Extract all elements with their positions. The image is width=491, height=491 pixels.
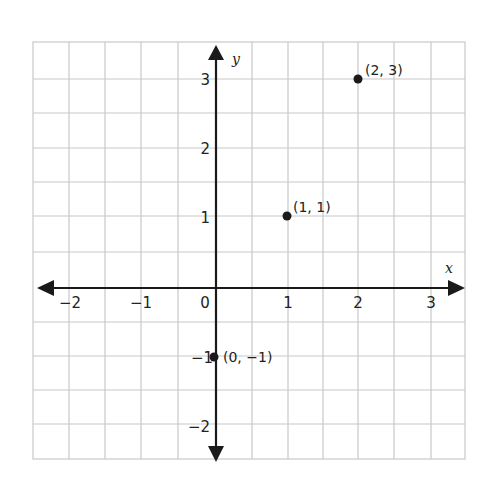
point-label: (0, −1) bbox=[223, 349, 272, 365]
x-axis-label: x bbox=[445, 260, 453, 276]
point-0-neg1 bbox=[210, 353, 219, 362]
x-tick: −1 bbox=[130, 294, 152, 312]
y-axis-up-arrow-icon bbox=[208, 45, 224, 60]
point-label: (2, 3) bbox=[365, 62, 403, 78]
grid bbox=[33, 42, 465, 459]
y-tick: −2 bbox=[188, 418, 210, 436]
x-axis-left-arrow-icon bbox=[37, 280, 54, 296]
x-axis-right-arrow-icon bbox=[448, 280, 465, 296]
data-points: (2, 3) (1, 1) (0, −1) bbox=[210, 62, 403, 365]
x-tick: 0 bbox=[200, 294, 210, 312]
x-tick: 3 bbox=[426, 294, 436, 312]
point-label: (1, 1) bbox=[293, 199, 331, 215]
axes bbox=[37, 45, 465, 462]
x-tick: 2 bbox=[353, 294, 363, 312]
y-tick-labels: 3 2 1 −1 −2 bbox=[188, 71, 213, 436]
x-tick-labels: −2 −1 0 1 2 3 bbox=[59, 294, 436, 312]
coordinate-plane: y x −2 −1 0 1 2 3 3 2 1 −1 −2 (2, 3) (1,… bbox=[0, 0, 491, 491]
point-1-1 bbox=[283, 212, 292, 221]
x-tick: −2 bbox=[59, 294, 81, 312]
y-tick: 3 bbox=[200, 71, 210, 89]
x-tick: 1 bbox=[283, 294, 293, 312]
grid-border bbox=[33, 42, 465, 459]
y-tick: 2 bbox=[200, 140, 210, 158]
y-axis-label: y bbox=[231, 51, 241, 67]
y-tick: 1 bbox=[200, 209, 210, 227]
point-2-3 bbox=[354, 75, 363, 84]
